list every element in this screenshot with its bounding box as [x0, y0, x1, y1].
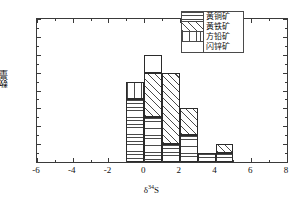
y-tick-mark-right — [285, 28, 287, 29]
y-tick-mark-right — [285, 46, 287, 47]
bar-segment — [144, 117, 162, 162]
bar-segment — [162, 73, 180, 145]
plot-frame — [36, 18, 288, 163]
bar-segment — [144, 73, 162, 118]
y-tick-mark — [37, 37, 41, 38]
y-tick-mark-right — [283, 126, 287, 127]
x-tick-mark — [108, 158, 109, 162]
y-tick-mark — [37, 82, 39, 83]
x-tick-mark-top — [37, 19, 38, 23]
legend-item: 方铅矿 — [182, 32, 243, 42]
y-tick-mark — [37, 28, 39, 29]
x-tick-mark — [198, 160, 199, 162]
x-tick-label: 0 — [141, 166, 146, 175]
y-tick-mark-right — [285, 99, 287, 100]
y-tick-mark — [37, 144, 41, 145]
bar-segment — [126, 99, 144, 162]
y-tick-mark-right — [283, 91, 287, 92]
legend-item-label: 黄铁矿 — [204, 22, 243, 32]
x-tick-mark-top — [73, 19, 74, 23]
bar-segment — [198, 153, 216, 162]
x-tick-mark — [180, 158, 181, 162]
y-tick-mark-right — [283, 73, 287, 74]
y-tick-mark-right — [283, 55, 287, 56]
y-tick-mark — [37, 73, 41, 74]
x-tick-mark — [287, 158, 288, 162]
x-tick-mark-top — [269, 19, 270, 21]
x-tick-mark-top — [287, 19, 288, 23]
y-tick-mark-right — [285, 64, 287, 65]
y-tick-mark-right — [283, 37, 287, 38]
x-tick-mark — [162, 160, 163, 162]
x-tick-mark — [73, 158, 74, 162]
y-tick-mark — [37, 162, 41, 163]
x-tick-label: 2 — [177, 166, 182, 175]
x-tick-mark — [91, 160, 92, 162]
x-tick-mark — [216, 158, 217, 162]
x-tick-mark-top — [108, 19, 109, 23]
legend-swatch-icon — [182, 12, 204, 22]
x-tick-label: -6 — [32, 166, 40, 175]
y-tick-mark-right — [285, 135, 287, 136]
bar-segment — [180, 135, 198, 162]
legend-item-label: 方铅矿 — [204, 32, 243, 42]
plot-area — [37, 19, 287, 162]
legend-item: 黄铜矿 — [182, 12, 243, 22]
y-tick-mark — [37, 135, 39, 136]
x-tick-mark-top — [126, 19, 127, 21]
y-tick-mark-right — [283, 162, 287, 163]
x-tick-mark — [55, 160, 56, 162]
x-tick-mark-top — [55, 19, 56, 21]
x-tick-label: 8 — [284, 166, 289, 175]
legend-swatch-icon — [182, 32, 204, 42]
legend-item: 闪锌矿 — [182, 42, 243, 52]
x-axis-title-element: S — [154, 185, 159, 195]
x-tick-mark-top — [162, 19, 163, 21]
legend-item-label: 黄铜矿 — [204, 12, 243, 22]
legend-item: 黄铁矿 — [182, 22, 243, 32]
y-tick-mark — [37, 55, 41, 56]
legend-swatch-icon — [182, 42, 204, 52]
y-tick-mark-right — [283, 108, 287, 109]
bar-segment — [180, 108, 198, 135]
y-tick-mark — [37, 46, 39, 47]
y-tick-mark — [37, 126, 41, 127]
x-tick-label: 4 — [212, 166, 217, 175]
x-tick-label: 6 — [248, 166, 253, 175]
x-tick-mark — [144, 158, 145, 162]
x-tick-mark — [269, 160, 270, 162]
y-tick-mark — [37, 99, 39, 100]
y-tick-mark-right — [283, 144, 287, 145]
y-axis-title: 数量 — [0, 70, 10, 88]
x-tick-mark — [251, 158, 252, 162]
bar-segment — [216, 153, 234, 162]
x-tick-label: -4 — [68, 166, 76, 175]
y-tick-mark — [37, 108, 41, 109]
legend-swatch-icon — [182, 22, 204, 32]
x-tick-label: -2 — [104, 166, 112, 175]
y-tick-mark — [37, 153, 39, 154]
histogram-figure: 数量 δ34S 黄铜矿黄铁矿方铅矿闪锌矿 0246810121416-6-4-2… — [0, 0, 303, 205]
x-tick-mark-top — [251, 19, 252, 23]
bar-segment — [162, 144, 180, 162]
x-tick-mark-top — [91, 19, 92, 21]
y-tick-mark — [37, 91, 41, 92]
y-tick-mark-right — [285, 117, 287, 118]
x-tick-mark — [233, 160, 234, 162]
bar-segment — [216, 144, 234, 153]
x-tick-mark — [126, 160, 127, 162]
x-axis-title: δ34S — [0, 182, 303, 195]
y-tick-mark — [37, 64, 39, 65]
y-tick-mark-right — [285, 153, 287, 154]
bar-segment — [126, 82, 144, 100]
y-tick-mark — [37, 117, 39, 118]
y-tick-mark-right — [285, 82, 287, 83]
legend-item-label: 闪锌矿 — [204, 42, 243, 52]
x-tick-mark-top — [144, 19, 145, 23]
bar-segment — [144, 55, 162, 73]
x-tick-mark — [37, 158, 38, 162]
legend: 黄铜矿黄铁矿方铅矿闪锌矿 — [181, 11, 244, 53]
